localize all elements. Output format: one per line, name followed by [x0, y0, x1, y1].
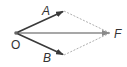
label-a: A	[41, 4, 50, 18]
guide-line-b-f	[64, 33, 110, 55]
label-o: O	[11, 38, 20, 52]
vector-diagram: A O B F	[0, 0, 127, 67]
label-f: F	[114, 27, 122, 41]
origin-point	[14, 31, 18, 35]
vector-ob-arrow	[16, 33, 63, 55]
label-b: B	[43, 51, 51, 65]
guide-line-a-f	[64, 11, 110, 33]
vector-oa-arrow	[16, 12, 63, 34]
